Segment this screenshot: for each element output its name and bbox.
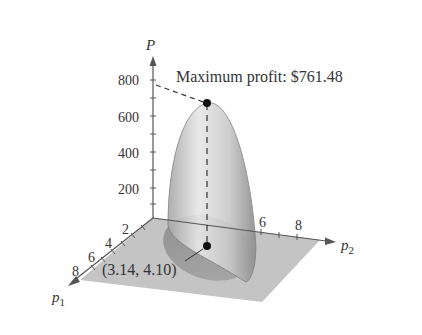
p-tick-600: 600 <box>118 110 139 125</box>
p1-tick-4: 4 <box>105 236 112 251</box>
p-tick-800: 800 <box>118 73 139 88</box>
p2-axis-arrow-icon <box>325 238 336 246</box>
base-point-marker <box>203 242 211 250</box>
p1-tick-2: 2 <box>122 222 129 237</box>
max-point-coordinates: (3.14, 4.10) <box>102 261 177 279</box>
max-point-marker <box>203 99 211 107</box>
max-profit-annotation: Maximum profit: $761.48 <box>176 68 343 86</box>
profit-surface-chart: P 800 600 400 200 2 4 6 8 p1 6 <box>0 0 422 335</box>
p1-tick-8: 8 <box>72 264 79 279</box>
p-tick-400: 400 <box>118 146 139 161</box>
p-axis-arrow-icon <box>150 56 157 66</box>
p1-tick-6: 6 <box>88 250 95 265</box>
p2-axis-label: p2 <box>340 237 354 256</box>
p2-tick-8: 8 <box>295 218 302 233</box>
p-tick-200: 200 <box>118 182 139 197</box>
p1-axis-label: p1 <box>51 289 65 308</box>
p-axis-label: P <box>145 37 155 53</box>
p2-tick-6: 6 <box>259 215 266 230</box>
max-leader-dashed <box>156 85 206 103</box>
